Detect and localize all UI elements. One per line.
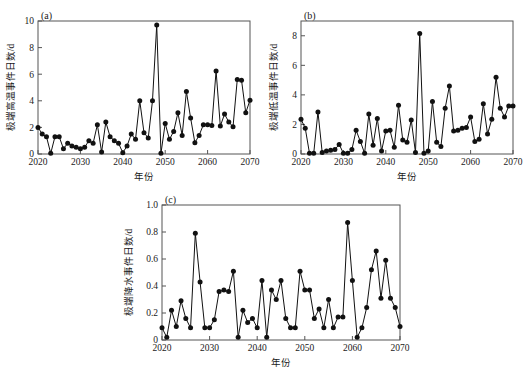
data-point-marker <box>388 296 393 301</box>
data-point-marker <box>362 151 367 156</box>
data-point-marker <box>379 149 384 154</box>
data-point-marker <box>192 140 197 145</box>
x-axis-tick-label: 2070 <box>504 157 523 167</box>
data-point-marker <box>108 134 113 139</box>
data-point-marker <box>350 278 355 283</box>
data-point-marker <box>91 141 96 146</box>
data-point-marker <box>279 278 284 283</box>
data-point-marker <box>205 122 210 127</box>
x-axis-tick-label: 2040 <box>376 157 395 167</box>
y-axis-tick-label: 6 <box>292 61 297 71</box>
data-point-marker <box>61 146 66 151</box>
x-axis-tick-label: 2030 <box>200 343 219 353</box>
y-axis-tick-label: 4 <box>29 96 34 106</box>
panel-tag-label: (a) <box>41 10 52 22</box>
y-axis-tick-label: 10 <box>25 16 35 26</box>
data-point-marker <box>307 288 312 293</box>
data-point-marker <box>171 129 176 134</box>
data-point-marker <box>383 258 388 263</box>
data-point-marker <box>125 144 130 149</box>
data-point-marker <box>116 141 121 146</box>
data-point-marker <box>369 267 374 272</box>
data-point-marker <box>169 308 174 313</box>
data-point-marker <box>188 116 193 121</box>
chart-panel-b: 20202030204020502060207002468(b)年份极端低温事件… <box>263 4 525 190</box>
data-point-marker <box>398 324 403 329</box>
x-axis-tick-label: 2060 <box>198 157 217 167</box>
data-point-marker <box>320 150 325 155</box>
data-point-marker <box>443 106 448 111</box>
data-point-marker <box>164 335 169 340</box>
data-point-marker <box>226 120 231 125</box>
data-point-marker <box>451 129 456 134</box>
chart-svg-a: 2020203020402050206020700246810(a)年份极端高温… <box>0 4 262 190</box>
y-axis-title: 极端高温事件日数/d <box>5 44 16 132</box>
y-axis-tick-label: 0 <box>153 335 158 345</box>
data-point-marker <box>430 99 435 104</box>
y-axis-title: 极端低温事件日数/d <box>268 44 279 132</box>
data-point-marker <box>274 297 279 302</box>
panel-tag-label: (c) <box>165 194 176 206</box>
data-point-marker <box>255 325 260 330</box>
data-point-marker <box>455 128 460 133</box>
data-point-marker <box>226 289 231 294</box>
data-point-marker <box>324 149 329 154</box>
data-point-marker <box>288 325 293 330</box>
y-axis-tick-label: 0.8 <box>146 227 158 237</box>
data-point-marker <box>40 132 45 137</box>
data-point-marker <box>293 325 298 330</box>
x-axis-tick-label: 2040 <box>248 343 267 353</box>
data-point-marker <box>392 145 397 150</box>
data-point-marker <box>489 117 494 122</box>
data-point-marker <box>82 145 87 150</box>
data-point-marker <box>209 123 214 128</box>
data-point-marker <box>198 279 203 284</box>
data-point-marker <box>188 325 193 330</box>
data-point-marker <box>269 288 274 293</box>
data-point-marker <box>239 78 244 83</box>
y-axis-tick-label: 0.4 <box>146 281 158 291</box>
data-point-marker <box>331 325 336 330</box>
data-point-marker <box>95 122 100 127</box>
data-point-marker <box>421 151 426 156</box>
data-point-marker <box>375 116 380 121</box>
data-point-marker <box>477 137 482 142</box>
y-axis-tick-label: 0.2 <box>146 308 158 318</box>
data-point-marker <box>193 231 198 236</box>
data-point-marker <box>447 84 452 89</box>
y-axis-tick-label: 6 <box>29 70 34 80</box>
data-point-marker <box>502 115 507 120</box>
data-point-marker <box>354 128 359 133</box>
data-point-marker <box>311 151 316 156</box>
y-axis-title: 极端降水事件日数/d <box>123 229 134 317</box>
data-point-marker <box>299 117 304 122</box>
data-point-marker <box>337 142 342 147</box>
data-point-marker <box>349 147 354 152</box>
data-point-marker <box>183 316 188 321</box>
data-point-marker <box>366 112 371 117</box>
data-point-marker <box>184 89 189 94</box>
data-point-marker <box>315 109 320 114</box>
data-point-marker <box>378 296 383 301</box>
x-axis-title: 年份 <box>397 171 417 182</box>
data-point-marker <box>481 101 486 106</box>
data-point-marker <box>332 147 337 152</box>
data-point-marker <box>44 134 49 139</box>
data-point-marker <box>146 136 151 141</box>
x-axis-tick-label: 2030 <box>71 157 90 167</box>
data-point-marker <box>298 269 303 274</box>
data-point-marker <box>36 125 41 130</box>
data-point-marker <box>74 145 79 150</box>
y-axis-tick-label: 8 <box>292 31 297 41</box>
x-axis-title: 年份 <box>271 357 291 368</box>
data-point-marker <box>175 110 180 115</box>
data-point-marker <box>472 139 477 144</box>
data-point-marker <box>214 68 219 73</box>
data-point-marker <box>321 325 326 330</box>
data-point-marker <box>374 248 379 253</box>
data-point-marker <box>179 298 184 303</box>
data-point-marker <box>413 150 418 155</box>
data-point-marker <box>383 129 388 134</box>
data-point-marker <box>221 288 226 293</box>
data-point-marker <box>358 139 363 144</box>
